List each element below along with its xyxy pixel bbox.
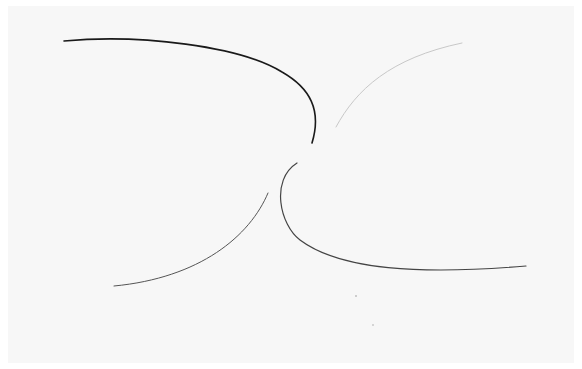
speck [355, 295, 357, 297]
upper-left-arc [64, 39, 315, 143]
upper-right-arc [336, 43, 462, 127]
lower-right-arc [281, 163, 526, 270]
lower-left-arc [114, 193, 268, 286]
speck [372, 324, 374, 326]
line-drawing [0, 0, 582, 369]
